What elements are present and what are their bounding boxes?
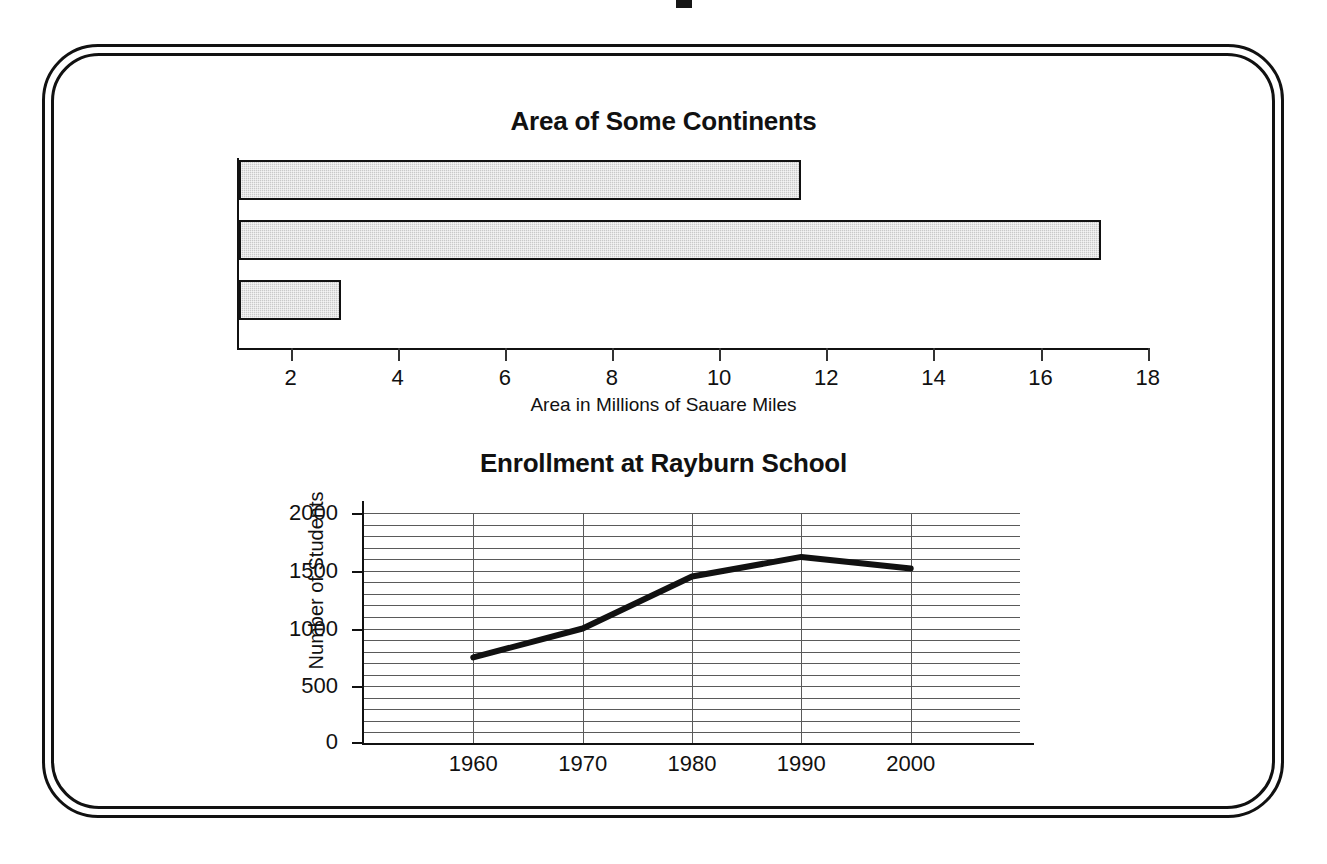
line-chart-title: Enrollment at Rayburn School <box>0 448 1327 479</box>
bar-chart-x-tick-label: 4 <box>375 365 421 391</box>
bar-chart-plot-area: Africa Asia Australia 24681012141618 <box>237 158 1149 350</box>
bar-chart-x-axis-label: Area in Millions of Sauare Miles <box>0 394 1327 416</box>
bar-australia <box>239 280 341 320</box>
bar-chart-x-tick-label: 10 <box>696 365 742 391</box>
bar-chart-x-tick <box>933 348 935 361</box>
line-chart-y-tick <box>352 686 364 688</box>
bar-chart-x-tick <box>398 348 400 361</box>
bar-chart-x-tick-label: 16 <box>1018 365 1064 391</box>
line-chart-x-tick-label: 1970 <box>538 751 628 777</box>
bar-chart-x-tick-label: 18 <box>1125 365 1171 391</box>
cut-off-heading-glyph <box>676 0 692 8</box>
line-chart-plot-area: 0500100015002000 19601970198019902000 Nu… <box>364 513 1020 744</box>
bar-chart-x-tick <box>291 348 293 361</box>
line-chart-y-axis-label: Number of Students <box>305 461 328 701</box>
bar-chart-x-tick-label: 8 <box>589 365 635 391</box>
bar-chart-x-axis-line <box>237 348 1149 350</box>
line-chart-enrollment-at-rayburn-school: Enrollment at Rayburn School 05001000150… <box>0 448 1327 788</box>
bar-chart-area-of-some-continents: Area of Some Continents Africa Asia Aust… <box>0 100 1327 430</box>
bar-chart-x-tick <box>1148 348 1150 361</box>
line-chart-x-tick-label: 1990 <box>756 751 846 777</box>
bar-chart-x-tick-label: 14 <box>910 365 956 391</box>
line-chart-x-tick-label: 1960 <box>428 751 518 777</box>
enrollment-series-line <box>473 557 910 658</box>
bar-chart-x-tick-label: 2 <box>268 365 314 391</box>
bar-asia <box>239 220 1101 260</box>
bar-chart-x-tick <box>612 348 614 361</box>
line-chart-x-tick-label: 1980 <box>647 751 737 777</box>
bar-chart-x-tick-label: 6 <box>482 365 528 391</box>
line-chart-y-tick <box>352 629 364 631</box>
bar-chart-x-tick <box>505 348 507 361</box>
bar-chart-title: Area of Some Continents <box>0 106 1327 137</box>
bar-chart-x-tick <box>826 348 828 361</box>
line-chart-x-tick-label: 2000 <box>866 751 956 777</box>
bar-africa <box>239 160 801 200</box>
line-chart-y-tick-label: 0 <box>218 729 338 755</box>
worksheet-page: Area of Some Continents Africa Asia Aust… <box>0 0 1327 864</box>
bar-chart-x-tick <box>719 348 721 361</box>
bar-chart-x-tick-label: 12 <box>803 365 849 391</box>
line-chart-y-tick <box>352 513 364 515</box>
line-chart-y-tick <box>352 571 364 573</box>
bar-chart-x-tick <box>1041 348 1043 361</box>
line-chart-y-tick <box>352 742 364 744</box>
line-chart-series-svg <box>364 513 1020 744</box>
